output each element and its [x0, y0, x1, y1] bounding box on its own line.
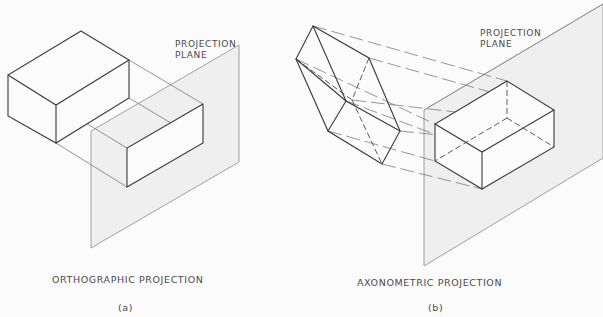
plane-label-b-line2: PLANE	[480, 39, 512, 49]
orthographic-figure: PROJECTION PLANE ORTHOGRAPHIC PROJECTION…	[8, 31, 239, 313]
caption-b: AXONOMETRIC PROJECTION	[357, 277, 502, 288]
tilted-box-b	[296, 26, 400, 164]
axonometric-figure: PROJECTION PLANE AXONOMETRIC PROJECTION …	[296, 4, 603, 313]
plane-label-b-line1: PROJECTION	[480, 28, 541, 38]
plane-label-a-line1: PROJECTION	[175, 39, 236, 49]
projection-diagram: PROJECTION PLANE ORTHOGRAPHIC PROJECTION…	[0, 0, 603, 317]
caption-a: ORTHOGRAPHIC PROJECTION	[52, 274, 203, 285]
plane-label-a-line2: PLANE	[175, 50, 207, 60]
sublabel-a: (a)	[118, 302, 133, 313]
sublabel-b: (b)	[428, 302, 443, 313]
